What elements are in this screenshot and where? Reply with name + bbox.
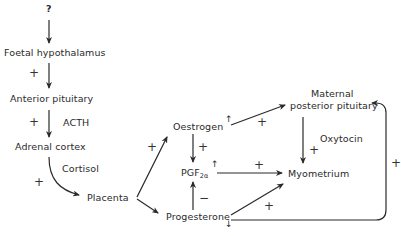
node-foetal-hypothalamus: Foetal hypothalamus <box>4 47 106 58</box>
node-adrenal-cortex: Adrenal cortex <box>15 141 86 152</box>
plus-sign: + <box>29 67 39 79</box>
node-pgf2a: PGF2α <box>181 167 208 182</box>
plus-sign: + <box>147 141 157 153</box>
unknown-trigger-label: ? <box>46 3 52 14</box>
plus-sign: + <box>34 176 44 188</box>
edge-label-cortisol: Cortisol <box>62 163 99 174</box>
plus-sign: + <box>254 159 264 171</box>
node-myometrium: Myometrium <box>288 168 349 179</box>
arrow-placenta-to-progesterone <box>137 199 158 213</box>
pgf-increase-icon: ↑ <box>211 159 219 170</box>
node-maternal: Maternal <box>311 88 354 99</box>
node-posterior-pituitary: posterior pituitary <box>290 100 378 111</box>
node-anterior-pituitary: Anterior pituitary <box>10 93 93 104</box>
plus-sign: + <box>198 141 208 153</box>
oestrogen-increase-icon: ↑ <box>225 114 233 125</box>
edge-label-acth: ACTH <box>63 117 89 128</box>
plus-sign: + <box>257 116 267 128</box>
plus-sign: + <box>309 144 319 156</box>
plus-sign: + <box>391 157 401 169</box>
plus-sign: + <box>29 116 39 128</box>
progesterone-decrease-icon: ↓ <box>225 219 233 230</box>
node-placenta: Placenta <box>87 192 129 203</box>
pgf-subscript: 2α <box>200 172 209 180</box>
pgf-base-text: PGF <box>181 167 200 178</box>
node-oestrogen: Oestrogen <box>173 121 223 132</box>
minus-sign: − <box>199 192 209 204</box>
arrow-progesterone-to-myometrium <box>231 184 283 215</box>
plus-sign: + <box>264 200 274 212</box>
node-progesterone: Progesterone <box>166 211 230 222</box>
edge-label-oxytocin: Oxytocin <box>320 133 363 144</box>
